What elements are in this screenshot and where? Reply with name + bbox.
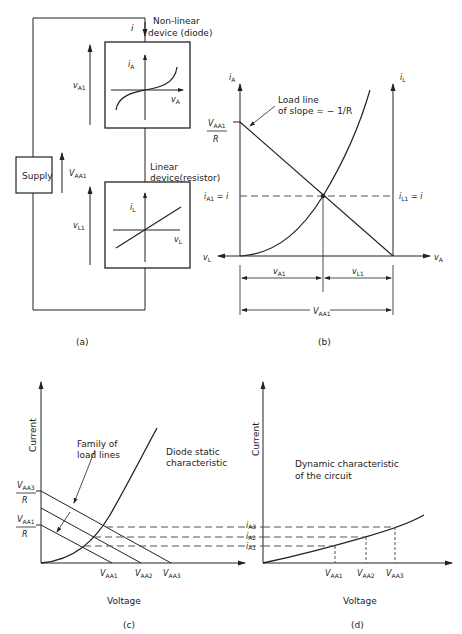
il-axis-label: iL [400, 73, 406, 83]
va-axis-label: vA [434, 253, 444, 263]
resistor-vl-label: vL [174, 235, 183, 245]
panel-c-graph [36, 382, 263, 563]
dynamic-label: Dynamic characteristic [295, 459, 399, 469]
d-y-tick-2: iA2 [246, 532, 256, 541]
resistor-line [116, 207, 181, 248]
dim-va1-label: vA1 [273, 267, 286, 277]
right-operating-label: iL1 = i [399, 192, 423, 202]
v-aa1-label: VAA1 [69, 169, 87, 179]
d-y-label: Current [251, 422, 261, 456]
d-x-tick-3: VAA3 [386, 569, 404, 579]
operating-point [321, 194, 325, 198]
caption-b: (b) [318, 337, 331, 347]
v-l1-label: vL1 [73, 221, 85, 231]
dynamic-characteristic [263, 515, 424, 563]
dim-vaa1-label: VAA1 [313, 307, 331, 317]
c-x-label: Voltage [107, 596, 141, 606]
current-i-label: i [131, 23, 134, 33]
d-y-tick-1: iA1 [246, 542, 256, 551]
load-line-2 [41, 508, 141, 563]
left-operating-label: iA1 = i [204, 192, 229, 202]
family-label: Family of [77, 439, 118, 449]
family-pointer-2-icon [57, 512, 70, 532]
diode-box [105, 42, 190, 128]
d-x-tick-2: VAA2 [357, 569, 375, 579]
c-bot-numerator: VAA1 [17, 515, 35, 525]
c-x-tick-2: VAA2 [135, 569, 153, 579]
load-line-label: Load line [278, 95, 319, 105]
c-bot-denominator: R [22, 530, 28, 539]
diode-label-2: device (diode) [148, 28, 212, 38]
supply-label: Supply [22, 171, 53, 181]
diode-curve [116, 67, 177, 110]
c-top-denominator: R [22, 496, 28, 505]
circuit-wire [33, 193, 145, 310]
panel-c-labels: Current Family of load lines Diode stati… [16, 418, 227, 630]
v-a1-label: vA1 [73, 81, 86, 91]
intercept-denominator: R [213, 135, 219, 144]
c-x-tick-3: VAA3 [163, 569, 181, 579]
load-line-1 [41, 525, 112, 563]
load-line [240, 122, 393, 256]
intercept-numerator: VAA1 [208, 119, 226, 129]
diode-va-label: vA [171, 95, 181, 105]
resistor-box [105, 182, 190, 268]
c-y-label: Current [28, 418, 38, 452]
diode-static-label-2: characteristic [166, 458, 227, 468]
panel-d-labels: Current Dynamic characteristic of the ci… [246, 422, 404, 630]
diode-static-label: Diode static [166, 447, 220, 457]
diode-ia-label: iA [128, 60, 135, 70]
resistor-il-label: iL [130, 203, 136, 213]
c-top-numerator: VAA3 [17, 481, 35, 491]
dynamic-label-2: of the circuit [295, 471, 352, 481]
caption-d: (d) [351, 620, 364, 630]
panel-d-graph [263, 382, 452, 563]
d-x-tick-1: VAA1 [325, 569, 343, 579]
load-line-label-2: of slope = − 1/R [278, 106, 352, 116]
circuit-wire [33, 18, 145, 157]
resistor-label-2: device(resistor) [150, 173, 220, 183]
c-x-tick-1: VAA1 [100, 569, 118, 579]
load-line-pointer-icon [250, 106, 275, 126]
ia-axis-label: iA [229, 73, 236, 83]
d-y-tick-3: iA3 [246, 521, 256, 530]
figure-canvas: Non-linear device (diode) i iA vA Linear… [0, 0, 462, 634]
d-x-label: Voltage [343, 596, 377, 606]
family-label-2: load lines [77, 450, 120, 460]
dim-vl1-label: vL1 [352, 267, 364, 277]
resistor-label: Linear [150, 162, 178, 172]
vl-axis-label: vL [203, 253, 212, 263]
diode-label: Non-linear [153, 16, 200, 26]
caption-c: (c) [123, 620, 135, 630]
caption-a: (a) [76, 337, 89, 347]
